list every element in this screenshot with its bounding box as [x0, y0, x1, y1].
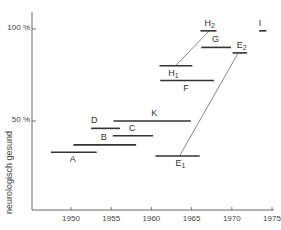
bar-label-g: G — [212, 34, 219, 44]
bar-label-b: B — [101, 132, 107, 142]
bar-label-text: G — [212, 34, 219, 44]
x-tick-label: 1950 — [56, 214, 86, 223]
connector-line — [176, 31, 210, 66]
connector-lines — [176, 31, 239, 156]
range-bars — [51, 31, 266, 156]
x-tick-label: 1975 — [257, 214, 281, 223]
bar-label-h2: H2 — [204, 18, 214, 29]
y-tick-label: 50 % — [2, 115, 30, 124]
bar-label-a: A — [70, 154, 76, 164]
bar-label-text: K — [151, 108, 157, 118]
bar-label-i: I — [259, 18, 262, 28]
bar-label-subscript: 1 — [175, 72, 179, 79]
bar-label-subscript: 1 — [182, 162, 186, 169]
y-axis-label: neurologisch gesund — [4, 131, 14, 214]
x-tick-label: 1960 — [136, 214, 166, 223]
x-tick-label: 1965 — [177, 214, 207, 223]
bar-label-text: B — [101, 132, 107, 142]
bar-label-text: D — [91, 115, 98, 125]
range-chart-svg — [0, 0, 281, 230]
bar-label-subscript: 2 — [243, 44, 247, 51]
bar-label-subscript: 2 — [211, 22, 215, 29]
bar-label-e1: E1 — [176, 158, 186, 169]
bar-label-text: C — [129, 123, 136, 133]
bar-label-h1: H1 — [168, 68, 178, 79]
bar-label-k: K — [151, 108, 157, 118]
y-tick-label: 100 % — [2, 23, 30, 32]
bar-label-text: I — [259, 18, 262, 28]
x-tick-label: 1970 — [217, 214, 247, 223]
x-tick-label: 1955 — [96, 214, 126, 223]
bar-label-text: A — [70, 154, 76, 164]
bar-label-d: D — [91, 115, 98, 125]
bar-label-f: F — [183, 83, 189, 93]
bar-label-e2: E2 — [237, 40, 247, 51]
bar-label-text: F — [183, 83, 189, 93]
bar-label-c: C — [129, 123, 136, 133]
connector-line — [180, 53, 239, 156]
